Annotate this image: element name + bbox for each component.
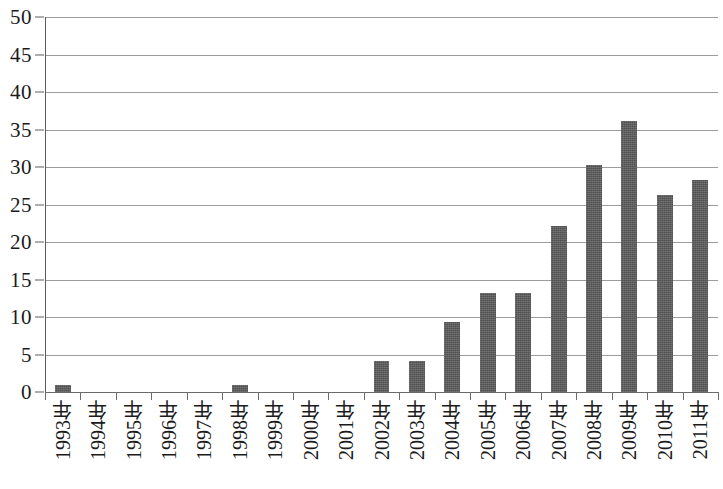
x-axis-tick-mark (505, 392, 506, 400)
x-axis-tick-label: 2008年 (584, 400, 604, 460)
y-axis-tick-mark (35, 392, 44, 393)
x-axis-tick-mark (364, 392, 365, 400)
x-axis-tick-label: 2002年 (372, 400, 392, 460)
x-axis-label-slot: 2007年 (541, 400, 576, 489)
x-axis-label-slot: 1993年 (45, 400, 80, 489)
x-axis-label-slot: 2002年 (364, 400, 399, 489)
x-axis-tick-mark (222, 392, 223, 400)
x-axis-tick-label: 1996年 (159, 400, 179, 460)
bar (657, 195, 673, 392)
bar-slot (116, 17, 151, 392)
x-axis-tick-label: 1993年 (53, 400, 73, 460)
x-axis-tick-mark (293, 392, 294, 400)
bar-slot (293, 17, 328, 392)
y-axis-tick-label: 5 (21, 344, 32, 365)
x-axis-tick-label: 1995年 (124, 400, 144, 460)
x-axis-tick-mark (399, 392, 400, 400)
bar-slot (647, 17, 682, 392)
bar (692, 180, 708, 392)
bar (480, 293, 496, 392)
x-axis-label-slot: 2010年 (647, 400, 682, 489)
x-axis-tick-mark (541, 392, 542, 400)
bar-slot (505, 17, 540, 392)
bar-slot (151, 17, 186, 392)
bar-slot (470, 17, 505, 392)
x-axis-label-slot: 2004年 (435, 400, 470, 489)
bar (232, 385, 248, 393)
x-axis-tick-mark (328, 392, 329, 400)
x-axis-tick-mark (45, 392, 46, 400)
x-axis-tick-label: 2007年 (549, 400, 569, 460)
y-axis-tick-label: 45 (10, 44, 32, 65)
bar-slot (576, 17, 611, 392)
x-axis-label-slot: 1998年 (222, 400, 257, 489)
bar-slot (435, 17, 470, 392)
y-axis-tick-label: 15 (10, 269, 32, 290)
bar-slot (45, 17, 80, 392)
x-axis-tick-mark (116, 392, 117, 400)
x-axis-label-slot: 2009年 (612, 400, 647, 489)
bar (551, 226, 567, 393)
x-axis-tick-mark (470, 392, 471, 400)
bar (55, 385, 71, 393)
y-axis-tick-mark (35, 92, 44, 93)
bar-slot (258, 17, 293, 392)
y-axis-tick-label: 35 (10, 119, 32, 140)
x-axis-tick-mark (187, 392, 188, 400)
y-axis: 05101520253035404550 (0, 0, 44, 392)
y-axis-tick-label: 0 (21, 382, 32, 403)
bar (515, 293, 531, 392)
y-axis-tick-mark (35, 354, 44, 355)
x-axis-tick-label: 2003年 (407, 400, 427, 460)
bar-slot (612, 17, 647, 392)
bar-slot (187, 17, 222, 392)
bar (409, 361, 425, 393)
x-axis-tick-label: 2001年 (336, 400, 356, 460)
x-axis-tick-label: 1994年 (88, 400, 108, 460)
x-axis-label-slot: 2008年 (576, 400, 611, 489)
y-axis-tick-mark (35, 54, 44, 55)
x-axis-label-slot: 1999年 (258, 400, 293, 489)
x-axis-tick-label: 2004年 (442, 400, 462, 460)
bar-slot (222, 17, 257, 392)
y-axis-tick-mark (35, 129, 44, 130)
x-axis-tick-label: 1998年 (230, 400, 250, 460)
x-axis-tick-mark (80, 392, 81, 400)
y-axis-tick-mark (35, 242, 44, 243)
bar-slot (399, 17, 434, 392)
x-axis-label-slot: 1996年 (151, 400, 186, 489)
x-axis-label-slot: 2006年 (505, 400, 540, 489)
x-axis-tick-label: 2000年 (301, 400, 321, 460)
x-axis-tick-label: 1999年 (265, 400, 285, 460)
y-axis-tick-mark (35, 204, 44, 205)
y-axis-tick-label: 50 (10, 7, 32, 28)
x-axis-label-slot: 1997年 (187, 400, 222, 489)
bar (586, 165, 602, 392)
x-axis-tick-mark (612, 392, 613, 400)
x-axis-label-slot: 2011年 (683, 400, 718, 489)
bar-chart-figure: 05101520253035404550 1993年1994年1995年1996… (0, 0, 723, 489)
y-axis-tick-label: 10 (10, 307, 32, 328)
x-axis-tick-mark (435, 392, 436, 400)
x-axis-tick-mark (718, 392, 719, 400)
x-axis-tick-mark (683, 392, 684, 400)
x-axis-tick-mark (151, 392, 152, 400)
bar-slot (328, 17, 363, 392)
x-axis-tick-mark (258, 392, 259, 400)
bar-slot (80, 17, 115, 392)
x-axis-label-slot: 1994年 (80, 400, 115, 489)
bar (374, 361, 390, 393)
x-axis-label-slot: 2003年 (399, 400, 434, 489)
x-axis-tick-label: 2010年 (655, 400, 675, 460)
x-axis-label-slot: 1995年 (116, 400, 151, 489)
x-axis-tick-mark (647, 392, 648, 400)
x-axis-tick-label: 2009年 (619, 400, 639, 460)
x-axis-tick-label: 2005年 (478, 400, 498, 460)
x-axis-tick-mark (576, 392, 577, 400)
bar-slot (541, 17, 576, 392)
bars-layer (45, 17, 718, 392)
x-axis-tick-label: 2011年 (690, 400, 710, 459)
bar (444, 322, 460, 392)
x-axis: 1993年1994年1995年1996年1997年1998年1999年2000年… (45, 400, 718, 489)
plot-area (45, 17, 718, 392)
